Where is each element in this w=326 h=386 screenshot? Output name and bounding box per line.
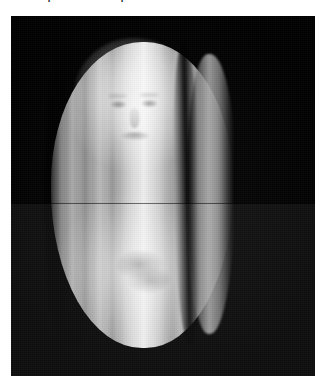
- nose: [130, 108, 139, 128]
- photo-canvas: [11, 16, 315, 376]
- figure-caption-text: then as part of the final picture.: [11, 0, 156, 3]
- left-eye: [111, 101, 126, 108]
- caption-strip: then as part of the final picture.: [0, 0, 326, 9]
- horizontal-exposure-seam: [11, 203, 315, 204]
- right-brow: [140, 93, 159, 97]
- right-side-fold: [187, 54, 235, 334]
- figure-photograph: [11, 16, 315, 376]
- left-brow: [108, 94, 127, 98]
- mouth: [121, 132, 149, 140]
- page-margin-bottom: [0, 376, 326, 386]
- right-eye: [142, 100, 157, 107]
- lower-drapery-knot: [115, 248, 173, 294]
- veiled-face: [99, 64, 171, 160]
